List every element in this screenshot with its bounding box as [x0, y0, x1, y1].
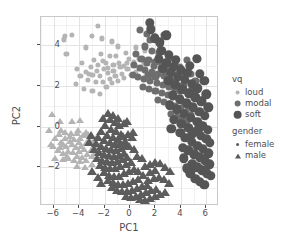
y-tick-label--2: −2: [47, 161, 60, 171]
data-point: [200, 111, 209, 120]
y-tick-label-4: 4: [55, 39, 60, 49]
data-point: [108, 53, 113, 58]
legend-label-soft: soft: [245, 109, 261, 120]
data-point: [90, 89, 95, 94]
data-point: [47, 141, 55, 147]
data-point: [91, 57, 96, 62]
data-point: [74, 127, 82, 133]
data-point: [146, 24, 155, 33]
data-point: [98, 92, 103, 97]
legend-label-modal: modal: [245, 98, 271, 109]
data-point: [98, 73, 103, 78]
data-point: [203, 103, 212, 112]
data-point: [73, 163, 81, 169]
y-tick-label-2: 2: [55, 80, 60, 90]
grid-line-y-4: [41, 45, 217, 46]
data-point: [124, 60, 129, 65]
data-point: [122, 117, 132, 125]
data-point: [122, 75, 127, 80]
data-point: [82, 87, 87, 92]
x-tick-label-2: 2: [152, 208, 157, 218]
legend-vq: vq loud modal soft: [232, 74, 271, 120]
data-point: [109, 39, 114, 44]
grid-line-y-5: [41, 25, 217, 26]
x-axis-label: PC1: [40, 222, 218, 233]
data-point: [76, 117, 84, 123]
y-tick-mark: [37, 44, 40, 45]
data-point: [118, 64, 123, 69]
data-point: [89, 34, 94, 39]
legend-label-female: female: [245, 139, 274, 150]
data-point: [93, 79, 98, 84]
legend-vq-title: vq: [232, 74, 271, 84]
data-point: [70, 33, 75, 38]
data-point: [128, 128, 138, 136]
legend-key-male-triangle-icon: [232, 150, 243, 161]
data-point: [84, 45, 89, 50]
legend-key-female-circle-icon: [232, 139, 243, 150]
data-point: [63, 153, 71, 159]
data-point: [103, 109, 113, 117]
legend-item-male[interactable]: male: [232, 150, 274, 161]
x-tick-label-4: 4: [177, 208, 182, 218]
legend-key-modal-icon: [232, 98, 243, 109]
x-tick-label-6: 6: [203, 208, 208, 218]
plot-panel: [40, 16, 218, 205]
legend-item-female[interactable]: female: [232, 139, 274, 150]
data-point: [84, 138, 94, 146]
data-point: [66, 138, 74, 144]
data-point: [206, 171, 215, 180]
data-point: [64, 51, 69, 56]
data-point: [165, 167, 175, 175]
x-tick-label--6: −6: [46, 208, 59, 218]
legend-item-soft[interactable]: soft: [232, 109, 271, 120]
data-point: [193, 83, 202, 92]
y-tick-mark: [37, 126, 40, 127]
data-point: [124, 50, 129, 55]
x-tick-label--2: −2: [97, 208, 110, 218]
x-tick-label--4: −4: [72, 208, 85, 218]
legend-key-loud-icon: [232, 87, 243, 98]
data-point: [59, 141, 67, 147]
data-point: [78, 73, 83, 78]
data-point: [160, 188, 170, 196]
legend-gender-title: gender: [232, 126, 274, 136]
y-tick-mark: [37, 85, 40, 86]
data-point: [85, 77, 90, 82]
y-tick-label-0: 0: [55, 121, 60, 131]
x-tick-label-0: 0: [126, 208, 131, 218]
data-point: [51, 155, 59, 161]
data-point: [192, 54, 201, 63]
data-point: [115, 44, 120, 49]
data-point: [202, 90, 211, 99]
data-point: [96, 179, 106, 187]
legend-label-loud: loud: [245, 87, 263, 98]
data-point: [105, 70, 110, 75]
legend-gender: gender female male: [232, 126, 274, 161]
data-point: [104, 85, 109, 90]
data-point: [48, 111, 56, 117]
pca-scatter-plot: PC1 PC2 vq loud modal soft gender female…: [0, 0, 285, 248]
data-point: [45, 127, 53, 133]
data-point: [98, 51, 103, 56]
data-point: [164, 179, 174, 187]
y-tick-mark: [37, 166, 40, 167]
legend-item-loud[interactable]: loud: [232, 87, 271, 98]
y-axis-label: PC2: [11, 86, 22, 146]
data-point: [110, 80, 115, 85]
legend-label-male: male: [245, 150, 266, 161]
data-point: [80, 60, 85, 65]
legend-key-soft-icon: [232, 109, 243, 120]
data-point: [95, 24, 100, 29]
data-point: [115, 78, 120, 83]
data-point: [76, 135, 84, 141]
legend-item-modal[interactable]: modal: [232, 98, 271, 109]
